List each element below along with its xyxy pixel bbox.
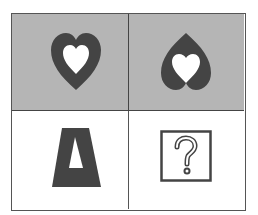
cell-bottom-left	[12, 111, 129, 209]
puzzle-grid	[11, 13, 246, 211]
cell-bottom-right	[129, 111, 244, 209]
heart-icon	[50, 32, 102, 92]
trapezoid-icon	[51, 127, 103, 189]
cell-top-right	[129, 14, 244, 111]
cell-top-left	[12, 14, 129, 111]
question-mark-box-icon	[160, 130, 212, 182]
inverted-heart-icon	[160, 32, 212, 92]
